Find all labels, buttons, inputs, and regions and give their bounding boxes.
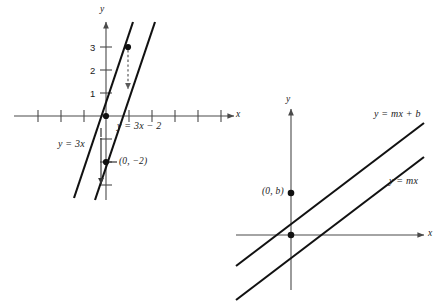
left-point-1-3 bbox=[125, 44, 131, 50]
left-point-0-minus-2 bbox=[103, 159, 109, 165]
left-y-axis-label: y bbox=[100, 4, 104, 14]
right-x-axis-label: x bbox=[428, 228, 432, 238]
left-y-tick-label-1: 1 bbox=[90, 88, 95, 99]
left-y-tick-label-3: 3 bbox=[90, 42, 95, 53]
right-point-0-b bbox=[288, 190, 295, 197]
right-equation-label-b: y = mx bbox=[389, 175, 418, 186]
left-equation-label-b: y = 3x − 2 bbox=[117, 120, 161, 131]
left-x-axis-label: x bbox=[236, 109, 240, 119]
right-equation-label-a: y = mx + b bbox=[374, 108, 421, 119]
right-panel bbox=[236, 109, 424, 300]
left-equation-label-a: y = 3x bbox=[58, 138, 85, 149]
right-point-label-0-b: (0, b) bbox=[262, 186, 284, 196]
left-panel bbox=[14, 22, 234, 200]
left-point-label-0-minus-2: (0, −2) bbox=[119, 156, 147, 166]
figure-svg bbox=[0, 0, 445, 305]
left-y-tick-label-2: 2 bbox=[90, 65, 95, 76]
right-point-origin bbox=[288, 232, 295, 239]
right-y-axis-label: y bbox=[286, 94, 290, 104]
figure-container: y x 1 2 3 y = 3x − 2 y = 3x (0, −2) y x … bbox=[0, 0, 445, 305]
left-point-origin bbox=[103, 113, 109, 119]
